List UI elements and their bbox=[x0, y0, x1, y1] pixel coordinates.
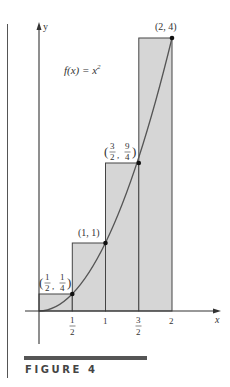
svg-text:): ) bbox=[67, 275, 71, 290]
svg-text:3: 3 bbox=[136, 315, 141, 325]
svg-text:1: 1 bbox=[70, 315, 75, 325]
svg-text:(: ( bbox=[104, 144, 108, 159]
svg-text:9: 9 bbox=[125, 141, 130, 151]
y-axis-label: y bbox=[43, 21, 48, 32]
x-axis-arrow-icon bbox=[213, 309, 221, 314]
point-three-half-nine-quarter bbox=[137, 161, 142, 166]
point-two-four bbox=[170, 36, 175, 41]
svg-text:(: ( bbox=[39, 275, 43, 290]
svg-text:): ) bbox=[132, 144, 136, 159]
tick-label-two: 2 bbox=[169, 316, 174, 326]
svg-text:3: 3 bbox=[110, 141, 115, 151]
svg-text:4: 4 bbox=[125, 152, 130, 162]
figure-caption: FIGURE 4 bbox=[25, 364, 98, 375]
tick-label-three-half: 3 2 bbox=[136, 315, 142, 337]
point-label-two-four: (2, 4) bbox=[155, 21, 177, 33]
rectangle-3 bbox=[106, 163, 139, 311]
svg-text:2: 2 bbox=[136, 327, 141, 337]
svg-text:,: , bbox=[52, 281, 54, 291]
riemann-sum-diagram: y x f(x) = x2 (2, 4) (1, 1) ( 3 2 , 9 4 … bbox=[0, 0, 230, 387]
svg-text:2: 2 bbox=[70, 327, 75, 337]
function-label: f(x) = x2 bbox=[64, 63, 101, 77]
x-axis-label: x bbox=[214, 314, 220, 325]
svg-text:1: 1 bbox=[60, 272, 65, 282]
riemann-rectangles bbox=[39, 38, 172, 311]
svg-text:2: 2 bbox=[45, 283, 50, 293]
svg-text:2: 2 bbox=[110, 152, 115, 162]
point-label-three-half-nine-quarter: ( 3 2 , 9 4 ) bbox=[104, 141, 136, 162]
figure-caption-bar bbox=[24, 356, 147, 360]
svg-text:4: 4 bbox=[60, 283, 65, 293]
svg-text:,: , bbox=[117, 150, 119, 160]
svg-text:1: 1 bbox=[45, 272, 50, 282]
point-label-one-one: (1, 1) bbox=[78, 227, 100, 239]
point-one-one bbox=[103, 241, 108, 246]
x-tick-labels: 1 2 1 3 2 2 bbox=[70, 315, 174, 337]
tick-label-one: 1 bbox=[103, 316, 108, 326]
tick-label-half: 1 2 bbox=[70, 315, 76, 337]
rectangle-4 bbox=[139, 38, 172, 311]
point-half-quarter bbox=[70, 292, 75, 297]
point-label-half-quarter: ( 1 2 , 1 4 ) bbox=[39, 272, 71, 293]
y-axis-arrow-icon bbox=[37, 22, 42, 30]
rectangle-1 bbox=[39, 294, 72, 311]
